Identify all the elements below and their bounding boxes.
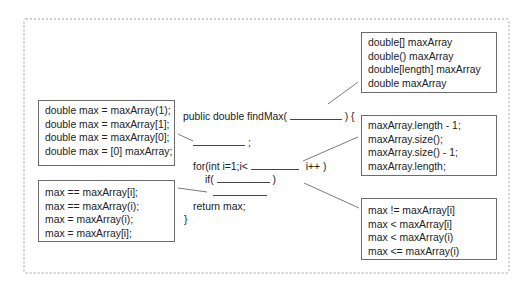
assignment-option[interactable]: max = maxArray(i); [45, 213, 168, 227]
initialization-option[interactable]: double max = maxArray[1]; [45, 118, 168, 132]
assignment-blank[interactable] [213, 186, 267, 196]
connector-assignment [178, 188, 207, 192]
initialization-option[interactable]: double max = maxArray[0]; [45, 131, 168, 145]
return-statement: return max; [193, 200, 246, 213]
if-suffix: ) [272, 174, 275, 185]
if-prefix: if( [205, 174, 214, 185]
condition-option[interactable]: max < maxArray[i] [368, 218, 490, 232]
initialization-statement: ; [193, 136, 251, 149]
assignment-options-box: max == maxArray[i]; max == maxArray(i); … [38, 180, 175, 242]
condition-option[interactable]: max != maxArray[i] [368, 204, 490, 218]
assignment-statement [213, 186, 267, 199]
for-suffix: i++ ) [306, 161, 327, 172]
for-loop-header: for(int i=1;i< i++ ) [193, 160, 326, 173]
assignment-option[interactable]: max == maxArray[i]; [45, 186, 168, 200]
condition-option[interactable]: max < maxArray(i) [368, 231, 490, 245]
connector-parameter [328, 82, 358, 104]
connector-initialization [178, 134, 193, 141]
for-prefix: for(int i=1;i< [193, 161, 248, 172]
condition-option[interactable]: max <= maxArray(i) [368, 245, 490, 259]
initialization-option[interactable]: double max = [0] maxArray; [45, 145, 168, 159]
signature-suffix: ) { [345, 111, 355, 122]
parameter-option[interactable]: double[length] maxArray [368, 63, 490, 77]
parameter-option[interactable]: double maxArray [368, 77, 490, 91]
loop-bound-option[interactable]: maxArray.size() - 1; [368, 146, 490, 160]
assignment-option[interactable]: max = maxArray[i]; [45, 227, 168, 241]
if-statement: if( ) [205, 173, 276, 186]
initialization-blank[interactable] [193, 136, 245, 146]
connector-condition [304, 183, 359, 208]
condition-options-box: max != maxArray[i] max < maxArray[i] max… [361, 198, 497, 260]
method-signature: public double findMax( ) { [183, 110, 355, 123]
connector-loop-bound [303, 137, 358, 161]
statement-terminator: ; [248, 137, 251, 148]
closing-brace: } [184, 213, 187, 226]
loop-bound-option[interactable]: maxArray.size(); [368, 133, 490, 147]
condition-blank[interactable] [217, 173, 270, 183]
initialization-options-box: double max = maxArray(1); double max = m… [38, 100, 175, 166]
signature-prefix: public double findMax( [183, 111, 287, 122]
parameter-option[interactable]: double() maxArray [368, 50, 490, 64]
assignment-option[interactable]: max == maxArray(i); [45, 200, 168, 214]
parameter-options-box: double[] maxArray double() maxArray doub… [361, 32, 497, 93]
initialization-option[interactable]: double max = maxArray(1); [45, 104, 168, 118]
loop-bound-option[interactable]: maxArray.length; [368, 160, 490, 174]
loop-bound-options-box: maxArray.length - 1; maxArray.size(); ma… [361, 115, 497, 176]
loop-bound-option[interactable]: maxArray.length - 1; [368, 119, 490, 133]
parameter-option[interactable]: double[] maxArray [368, 36, 490, 50]
loop-bound-blank[interactable] [251, 160, 299, 170]
parameter-blank[interactable] [290, 110, 342, 120]
